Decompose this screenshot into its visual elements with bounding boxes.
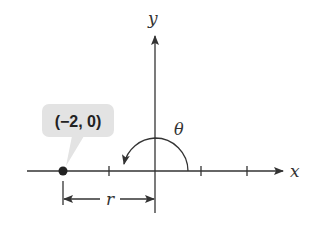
point-callout: (−2, 0) xyxy=(42,104,114,166)
x-axis: x xyxy=(27,161,300,181)
angle-theta: θ xyxy=(124,120,188,171)
y-axis: y xyxy=(147,8,158,213)
x-axis-label: x xyxy=(290,161,300,181)
callout-pointer xyxy=(66,136,84,166)
point-marker xyxy=(59,167,68,176)
radius-dimension: r xyxy=(63,181,154,209)
point-label: (−2, 0) xyxy=(55,113,102,130)
r-label: r xyxy=(106,189,115,209)
polar-coordinate-diagram: x y θ (−2, 0) r xyxy=(0,0,319,225)
theta-label: θ xyxy=(174,120,184,139)
y-axis-label: y xyxy=(147,8,158,28)
theta-arc xyxy=(124,138,188,171)
